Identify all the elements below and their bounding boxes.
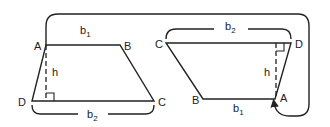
left-bottom-brace-l (32, 105, 78, 114)
left-label-h: h (52, 66, 58, 78)
right-label-D: D (295, 38, 303, 50)
left-label-B: B (124, 40, 131, 52)
right-label-b1: b1 (233, 102, 244, 117)
left-right-angle-mark (46, 93, 54, 101)
right-label-B: B (192, 94, 199, 106)
right-label-A: A (280, 92, 288, 104)
right-top-brace-l (166, 29, 214, 39)
left-trapezoid (32, 45, 154, 114)
left-bottom-brace-r (108, 105, 154, 114)
right-trapezoid (166, 29, 291, 99)
left-label-b2: b2 (87, 108, 98, 123)
right-label-C: C (155, 38, 163, 50)
right-label-b2: b2 (225, 20, 236, 35)
right-right-angle-mark (276, 43, 284, 51)
left-label-A: A (34, 40, 42, 52)
left-label-b1: b1 (80, 24, 91, 39)
trapezoid-rotation-diagram: A B C D h b1 b2 C D A B h b2 b1 (0, 0, 330, 127)
right-top-brace-r (248, 29, 291, 39)
left-label-C: C (158, 96, 166, 108)
left-label-D: D (18, 96, 26, 108)
right-label-h: h (264, 66, 270, 78)
